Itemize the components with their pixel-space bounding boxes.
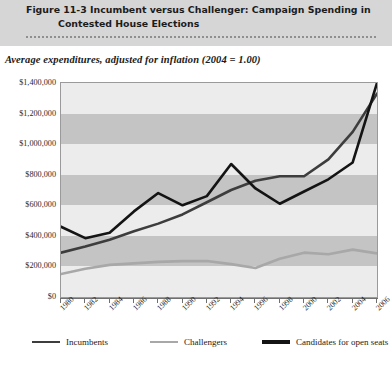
legend-swatch-icon — [262, 340, 290, 343]
chart-legend: IncumbentsChallengersCandidates for open… — [0, 337, 392, 353]
figure-title-line2: Contested House Elections — [58, 17, 376, 31]
legend-swatch-icon — [32, 341, 60, 344]
figure-title: Figure 11-3 Incumbent versus Challenger:… — [26, 3, 376, 30]
y-axis-tick-label: $200,000 — [25, 261, 56, 270]
series-lines — [61, 83, 377, 297]
chart-area: $0$200,000$400,000$600,000$800,000$1,000… — [0, 76, 392, 331]
y-axis-tick-label: $400,000 — [25, 230, 56, 239]
legend-item: Candidates for open seats — [262, 337, 388, 347]
plot-region — [60, 82, 378, 298]
legend-label: Challengers — [184, 337, 227, 347]
y-axis-tick-label: $0 — [48, 292, 56, 301]
series-line-candidates-for-open-seats — [61, 83, 377, 238]
y-axis-tick-label: $1,400,000 — [19, 78, 56, 87]
figure-header: Figure 11-3 Incumbent versus Challenger:… — [0, 0, 392, 46]
y-axis-labels: $0$200,000$400,000$600,000$800,000$1,000… — [0, 76, 56, 298]
title-divider — [26, 36, 376, 40]
series-line-incumbents — [61, 94, 377, 253]
y-axis-tick-label: $1,200,000 — [19, 108, 56, 117]
y-axis-tick-label: $600,000 — [25, 200, 56, 209]
figure-number: Figure 11-3 — [26, 4, 87, 15]
legend-item: Incumbents — [32, 337, 108, 347]
y-axis-tick-label: $800,000 — [25, 169, 56, 178]
legend-item: Challengers — [150, 337, 227, 347]
legend-label: Incumbents — [66, 337, 108, 347]
y-axis-tick-label: $1,000,000 — [19, 139, 56, 148]
chart-subtitle: Average expenditures, adjusted for infla… — [5, 54, 261, 65]
legend-swatch-icon — [150, 341, 178, 344]
figure-container: Figure 11-3 Incumbent versus Challenger:… — [0, 0, 392, 369]
series-line-challengers — [61, 250, 377, 274]
legend-label: Candidates for open seats — [296, 337, 388, 347]
figure-title-line1: Incumbent versus Challenger: Campaign Sp… — [90, 4, 371, 15]
